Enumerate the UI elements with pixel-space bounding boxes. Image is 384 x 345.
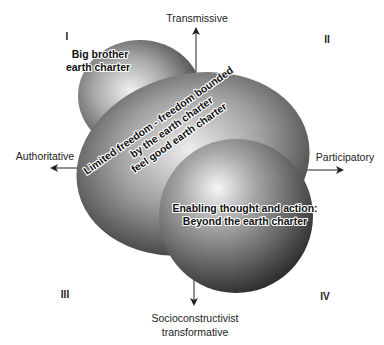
quadrant-label-1: I: [66, 31, 69, 42]
earth-charter-quadrant-diagram: Transmissive Authoritative Participatory…: [0, 0, 384, 345]
big-brother-label-line1: Big brother: [72, 48, 129, 60]
axis-label-socioconstructivist: Socioconstructivist: [152, 312, 239, 324]
big-brother-label-line2: earth charter: [66, 61, 130, 73]
axis-label-participatory: Participatory: [316, 151, 375, 163]
enabling-label-line1: Enabling thought and action:: [172, 202, 317, 214]
axis-label-transformative: transformative: [162, 326, 229, 338]
enabling-label-line2: Beyond the earth charter: [183, 215, 307, 227]
axis-label-transmissive: Transmissive: [166, 12, 228, 24]
quadrant-label-4: IV: [320, 291, 330, 302]
quadrant-label-3: III: [61, 289, 70, 300]
quadrant-label-2: II: [324, 34, 330, 45]
axis-label-authoritative: Authoritative: [16, 150, 75, 162]
